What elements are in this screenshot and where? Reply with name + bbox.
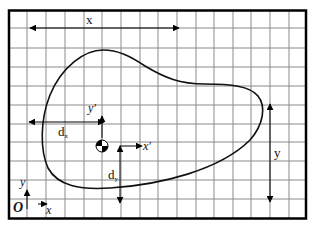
dx-subscript: x	[65, 132, 69, 140]
y-dimension-arrow: y	[270, 104, 281, 202]
centroid-diagram: x y dx dy x′ y′ y x O	[0, 0, 316, 233]
dy-subscript: y	[115, 175, 119, 183]
dy-arrow: dy	[108, 146, 120, 203]
x-dimension-label: x	[86, 12, 93, 27]
svg-text:dy: dy	[108, 167, 119, 183]
y-dimension-label: y	[274, 145, 281, 160]
centroid-symbol	[96, 140, 108, 152]
closed-area-outline	[42, 50, 262, 188]
origin-y-axis-label: y	[19, 175, 26, 189]
x-dimension-arrow: x	[30, 12, 179, 28]
origin-label: O	[13, 200, 23, 215]
svg-text:dx: dx	[58, 124, 69, 140]
dx-arrow: dx	[29, 122, 104, 140]
local-x-axis-label: x′	[142, 139, 151, 153]
local-y-axis-label: y′	[87, 101, 96, 115]
origin-x-axis-label: x	[45, 203, 52, 217]
